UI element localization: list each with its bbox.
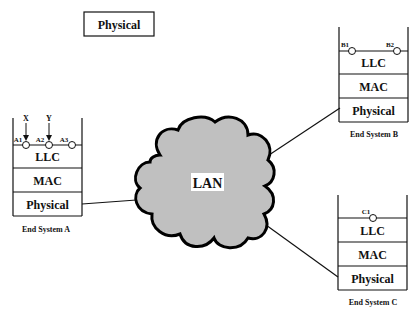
sap-c1-label: C1 (362, 208, 371, 216)
layer-a-mac: MAC (33, 174, 62, 188)
link-lan-c (266, 225, 338, 277)
end-system-c-label: End System C (349, 298, 398, 307)
lan-cloud: LAN (135, 117, 274, 248)
top-physical-label: Physical (98, 18, 141, 32)
sap-b2 (394, 48, 401, 55)
layer-c-mac: MAC (358, 248, 387, 262)
layer-c-physical: Physical (351, 272, 394, 286)
top-physical-box: Physical (84, 12, 154, 36)
sap-a2-label: A2 (36, 136, 45, 144)
sap-a1-label: A1 (14, 136, 23, 144)
sap-a3 (69, 142, 76, 149)
arrow-y-icon (46, 135, 52, 141)
layer-b-llc: LLC (361, 56, 386, 70)
layer-a-llc: LLC (35, 150, 60, 164)
end-system-a: LLC MAC Physical A1 A2 A3 X Y End System… (13, 114, 82, 234)
layer-b-mac: MAC (359, 80, 388, 94)
sap-a2 (46, 142, 53, 149)
layer-b-physical: Physical (352, 104, 395, 118)
layer-c-llc: LLC (360, 224, 385, 238)
lan-label: LAN (193, 176, 223, 191)
sap-c1 (370, 215, 377, 222)
sap-a1 (23, 142, 30, 149)
end-system-c: LLC MAC Physical C1 End System C (338, 195, 407, 307)
link-lan-b (266, 108, 340, 157)
end-system-b-label: End System B (350, 130, 399, 139)
sap-b1 (349, 48, 356, 55)
sap-a3-label: A3 (60, 136, 69, 144)
layer-a-physical: Physical (26, 198, 69, 212)
lan-diagram: Physical LAN LLC MAC Physical A1 A2 A3 X… (0, 0, 419, 314)
arrow-x-label: X (23, 114, 29, 123)
arrow-x-icon (23, 135, 29, 141)
sap-b2-label: B2 (386, 41, 395, 49)
sap-b1-label: B1 (341, 41, 350, 49)
end-system-b: LLC MAC Physical B1 B2 End System B (339, 27, 408, 139)
arrow-y-label: Y (46, 114, 52, 123)
end-system-a-label: End System A (22, 225, 70, 234)
